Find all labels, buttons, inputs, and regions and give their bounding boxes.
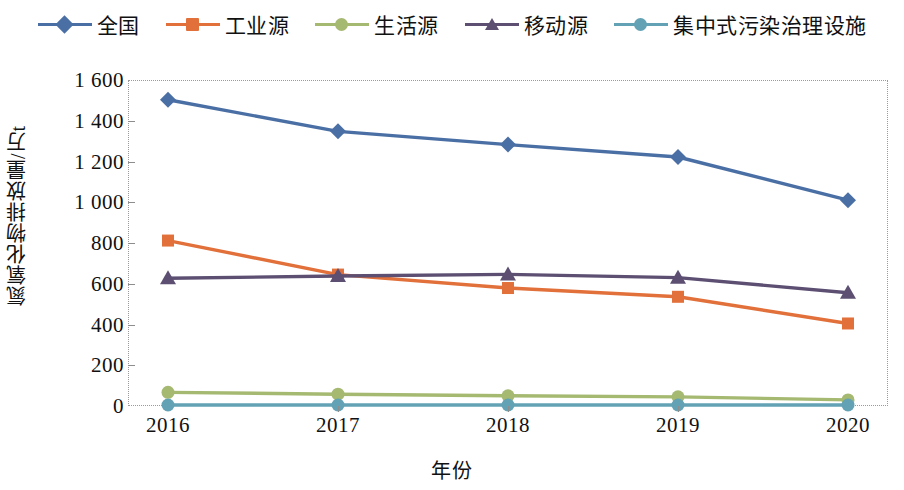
legend-marker-circle-icon <box>315 15 369 33</box>
y-tick-mark <box>128 325 135 326</box>
chart-legend: 全国工业源生活源移动源集中式污染治理设施 <box>0 6 904 42</box>
x-axis-tick-labels: 20162017201820192020 <box>128 413 888 445</box>
x-tick-label: 2017 <box>316 413 360 438</box>
legend-marker-diamond-icon <box>38 15 92 33</box>
y-tick-mark <box>128 162 135 163</box>
legend-item-5[interactable]: 集中式污染治理设施 <box>614 9 867 39</box>
data-point-marker <box>162 398 175 411</box>
data-point-marker <box>672 291 684 303</box>
y-tick-mark <box>128 365 135 366</box>
legend-label: 工业源 <box>225 9 290 39</box>
series-2 <box>162 235 854 330</box>
x-tick-label: 2016 <box>146 413 190 438</box>
plot-area <box>128 80 888 406</box>
legend-label: 生活源 <box>374 9 439 39</box>
legend-item-2[interactable]: 工业源 <box>166 9 290 39</box>
x-tick-mark <box>338 406 339 412</box>
data-point-marker <box>162 235 174 247</box>
y-tick-label: 800 <box>6 231 124 256</box>
x-axis-title: 年份 <box>0 455 904 484</box>
data-point-marker <box>502 282 514 294</box>
data-point-marker <box>842 317 854 329</box>
nox-emission-line-chart: 全国工业源生活源移动源集中式污染治理设施 氮氧化物排放量/万t 02004006… <box>0 0 904 490</box>
y-tick-mark <box>128 202 135 203</box>
y-tick-label: 1 000 <box>6 190 124 215</box>
legend-marker-circle-icon <box>614 15 668 33</box>
y-tick-label: 0 <box>6 394 124 419</box>
x-tick-label: 2020 <box>826 413 870 438</box>
series-lines-layer <box>128 80 888 406</box>
legend-label: 移动源 <box>524 9 589 39</box>
data-point-marker <box>160 92 176 108</box>
data-point-marker <box>500 137 516 153</box>
series-1 <box>160 92 856 208</box>
y-tick-mark <box>128 243 135 244</box>
y-tick-label: 200 <box>6 353 124 378</box>
data-point-marker <box>330 123 346 139</box>
y-axis-tick-labels: 02004006008001 0001 2001 4001 600 <box>0 80 124 406</box>
data-point-marker <box>162 386 175 399</box>
y-tick-mark <box>128 121 135 122</box>
legend-item-3[interactable]: 生活源 <box>315 9 439 39</box>
data-point-marker <box>670 149 686 165</box>
legend-item-1[interactable]: 全国 <box>38 9 140 39</box>
y-tick-label: 600 <box>6 271 124 296</box>
y-tick-label: 1 400 <box>6 108 124 133</box>
y-tick-label: 1 200 <box>6 149 124 174</box>
y-tick-label: 400 <box>6 312 124 337</box>
x-tick-mark <box>678 406 679 412</box>
data-point-marker <box>840 192 856 208</box>
legend-item-4[interactable]: 移动源 <box>465 9 589 39</box>
legend-marker-square-icon <box>166 15 220 33</box>
y-tick-label: 1 600 <box>6 68 124 93</box>
x-tick-label: 2018 <box>486 413 530 438</box>
legend-marker-triangle-icon <box>465 15 519 33</box>
y-tick-mark <box>128 284 135 285</box>
data-point-marker <box>842 398 855 411</box>
legend-label: 集中式污染治理设施 <box>673 9 867 39</box>
x-tick-label: 2019 <box>656 413 700 438</box>
legend-label: 全国 <box>97 9 140 39</box>
x-tick-mark <box>508 406 509 412</box>
